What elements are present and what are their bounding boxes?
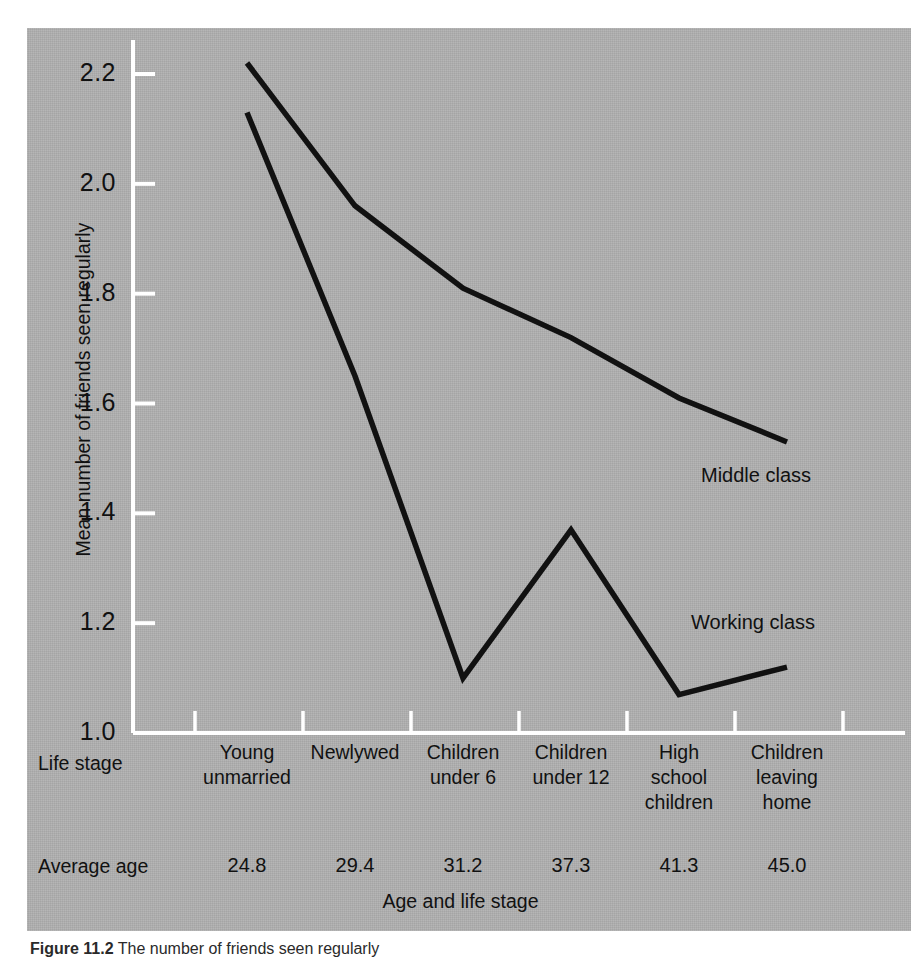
category-label-line: home — [731, 790, 843, 815]
x-axis-title: Age and life stage — [0, 890, 921, 913]
category-label: Highschoolchildren — [623, 740, 735, 815]
figure-root: Mean number of friends seen regularly 1.… — [0, 0, 921, 965]
average-age-value: 31.2 — [407, 854, 519, 877]
average-age-value: 24.8 — [191, 854, 303, 877]
category-label-line: under 12 — [515, 765, 627, 790]
category-label-line: leaving — [731, 765, 843, 790]
category-label-line: under 6 — [407, 765, 519, 790]
category-label-line: school — [623, 765, 735, 790]
average-age-value: 37.3 — [515, 854, 627, 877]
life-stage-row-header: Life stage — [38, 752, 123, 775]
figure-number: Figure 11.2 — [30, 940, 114, 957]
average-age-value: 45.0 — [731, 854, 843, 877]
category-label-line: Children — [515, 740, 627, 765]
average-age-value: 41.3 — [623, 854, 735, 877]
figure-caption: Figure 11.2 The number of friends seen r… — [30, 940, 379, 958]
category-label-line: children — [623, 790, 735, 815]
average-age-row-header: Average age — [38, 855, 148, 878]
category-label: Childrenleavinghome — [731, 740, 843, 815]
category-label-line: Children — [731, 740, 843, 765]
category-label-line: Children — [407, 740, 519, 765]
category-label: Childrenunder 6 — [407, 740, 519, 790]
category-label: Youngunmarried — [191, 740, 303, 790]
series-label-working-class: Working class — [691, 611, 815, 634]
series-line-middle-class — [247, 63, 787, 442]
category-label: Newlywed — [299, 740, 411, 765]
category-label: Childrenunder 12 — [515, 740, 627, 790]
series-label-middle-class: Middle class — [701, 464, 811, 487]
category-label-line: unmarried — [191, 765, 303, 790]
figure-caption-text: The number of friends seen regularly — [118, 940, 379, 957]
category-label-line: High — [623, 740, 735, 765]
average-age-value: 29.4 — [299, 854, 411, 877]
series-line-working-class — [247, 112, 787, 694]
data-series-group — [247, 63, 787, 695]
category-label-line: Newlywed — [299, 740, 411, 765]
category-label-line: Young — [191, 740, 303, 765]
